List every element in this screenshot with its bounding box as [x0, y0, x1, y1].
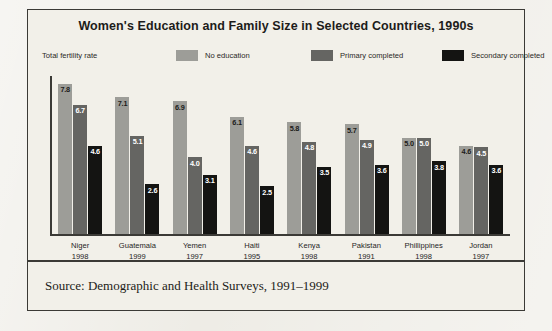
x-axis-label: Yemen1997	[166, 240, 223, 262]
chart-legend: Total fertility rate No education Primar…	[42, 48, 514, 62]
x-axis-country: Niger	[52, 240, 109, 251]
bar: 4.0	[188, 157, 202, 234]
bar-value-label: 3.5	[320, 169, 330, 176]
bar-value-label: 5.0	[419, 140, 429, 147]
bar: 6.1	[230, 117, 244, 235]
bar: 3.8	[432, 161, 446, 234]
x-axis-label: Jordan1997	[452, 240, 509, 262]
bar-value-label: 4.0	[190, 160, 200, 167]
source-note: Source: Demographic and Health Surveys, …	[45, 278, 329, 294]
bar: 4.6	[88, 146, 102, 235]
legend-label-no-education: No education	[205, 51, 250, 60]
bar-value-label: 6.9	[175, 104, 185, 111]
legend-item-no-education: No education	[176, 48, 250, 62]
bar: 7.1	[115, 97, 129, 234]
bar-value-label: 3.8	[434, 164, 444, 171]
bar-group: 7.86.74.6	[52, 76, 109, 234]
bar-value-label: 5.8	[290, 125, 300, 132]
bar-value-label: 7.8	[60, 86, 70, 93]
bar: 5.1	[130, 136, 144, 235]
bar: 5.0	[402, 138, 416, 235]
bar: 3.6	[375, 165, 389, 235]
legend-label-secondary-completed: Secondary completed	[471, 51, 544, 60]
plot-area: 7.86.74.67.15.12.66.94.03.16.14.62.55.84…	[50, 76, 510, 236]
bar-value-label: 2.6	[148, 187, 158, 194]
bar: 4.6	[245, 146, 259, 235]
page-background: Women's Education and Family Size in Sel…	[0, 0, 552, 331]
bar: 6.9	[173, 101, 187, 234]
bar-value-label: 7.1	[118, 100, 128, 107]
bar: 3.5	[317, 167, 331, 235]
x-axis-label: Haiti1995	[223, 240, 280, 262]
bar-value-label: 6.1	[232, 119, 242, 126]
legend-label-primary-completed: Primary completed	[340, 51, 403, 60]
x-axis-labels: Niger1998Guatemala1999Yemen1997Haiti1995…	[52, 240, 510, 262]
x-axis-line	[50, 234, 510, 236]
x-axis-country: Yemen	[166, 240, 223, 251]
bar: 3.6	[489, 165, 503, 235]
x-axis-country: Jordan	[452, 240, 509, 251]
bar-value-label: 3.6	[377, 167, 387, 174]
bar-value-label: 4.6	[90, 148, 100, 155]
bar: 5.7	[345, 124, 359, 234]
bar: 2.6	[145, 184, 159, 234]
bar-value-label: 5.1	[133, 138, 143, 145]
bar: 4.9	[360, 140, 374, 235]
x-axis-label: Phillippines1998	[395, 240, 452, 262]
x-axis-country: Kenya	[281, 240, 338, 251]
bar-group: 4.64.53.6	[453, 76, 510, 234]
bar-groups: 7.86.74.67.15.12.66.94.03.16.14.62.55.84…	[52, 76, 511, 234]
bar: 4.6	[459, 146, 473, 235]
bar-group: 7.15.12.6	[109, 76, 166, 234]
x-axis-country: Pakistan	[338, 240, 395, 251]
source-divider	[28, 260, 524, 262]
bar-group: 5.84.83.5	[281, 76, 338, 234]
bar-group: 6.14.62.5	[223, 76, 280, 234]
bar-group: 5.74.93.6	[338, 76, 395, 234]
bar-value-label: 3.6	[492, 167, 502, 174]
legend-swatch-secondary-completed	[442, 50, 464, 61]
bar-value-label: 4.6	[462, 148, 472, 155]
chart-area: Women's Education and Family Size in Sel…	[28, 10, 524, 246]
bar: 5.0	[417, 138, 431, 235]
legend-swatch-no-education	[176, 50, 198, 61]
bar-value-label: 4.6	[247, 148, 257, 155]
x-axis-label: Kenya1998	[281, 240, 338, 262]
x-axis-country: Phillippines	[395, 240, 452, 251]
legend-swatch-primary-completed	[311, 50, 333, 61]
x-axis-country: Guatemala	[109, 240, 166, 251]
bar: 4.8	[302, 142, 316, 235]
legend-item-primary-completed: Primary completed	[311, 48, 403, 62]
chart-frame: Women's Education and Family Size in Sel…	[27, 9, 525, 311]
legend-caption: Total fertility rate	[42, 48, 97, 62]
legend-item-secondary-completed: Secondary completed	[442, 48, 544, 62]
bar-group: 6.94.03.1	[166, 76, 223, 234]
bar-value-label: 4.9	[362, 142, 372, 149]
x-axis-country: Haiti	[223, 240, 280, 251]
bar-value-label: 4.8	[305, 144, 315, 151]
bar: 5.8	[287, 122, 301, 234]
bar: 3.1	[203, 175, 217, 235]
bar: 6.7	[73, 105, 87, 234]
bar: 7.8	[58, 84, 72, 235]
bar-value-label: 5.0	[404, 140, 414, 147]
bar-value-label: 6.7	[75, 107, 85, 114]
bar-group: 5.05.03.8	[395, 76, 452, 234]
chart-title: Women's Education and Family Size in Sel…	[28, 19, 524, 33]
x-axis-label: Niger1998	[52, 240, 109, 262]
legend-caption-label: Total fertility rate	[42, 51, 97, 60]
x-axis-label: Guatemala1999	[109, 240, 166, 262]
bar: 4.5	[474, 147, 488, 234]
bar-value-label: 5.7	[347, 127, 357, 134]
bar-value-label: 3.1	[205, 177, 215, 184]
bar: 2.5	[260, 186, 274, 234]
x-axis-label: Pakistan1991	[338, 240, 395, 262]
bar-value-label: 2.5	[262, 189, 272, 196]
bar-value-label: 4.5	[477, 150, 487, 157]
